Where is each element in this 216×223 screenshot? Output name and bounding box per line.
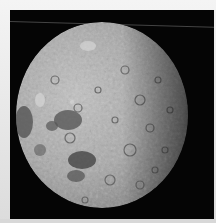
frame-bottom xyxy=(0,219,216,223)
moon-photograph xyxy=(10,10,214,219)
moon-disk xyxy=(10,10,214,219)
